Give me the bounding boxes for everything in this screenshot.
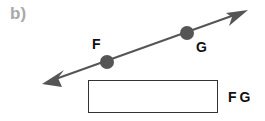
notation-label: FG: [228, 89, 253, 105]
left-arrowhead-icon: [42, 70, 64, 87]
point-f: [100, 55, 114, 69]
answer-input-box[interactable]: [88, 80, 218, 113]
right-arrowhead-icon: [226, 10, 248, 26]
point-g: [180, 26, 194, 40]
label-g: G: [196, 39, 207, 55]
line-fg: [50, 13, 240, 81]
label-f: F: [92, 36, 101, 52]
